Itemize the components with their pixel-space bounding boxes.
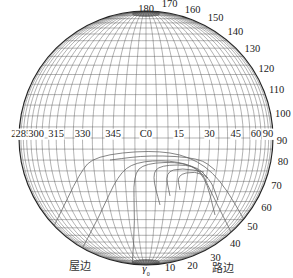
c-plane-label: 300 bbox=[28, 129, 45, 140]
gamma-angle-label: 170 bbox=[162, 0, 178, 9]
c-plane-label: 30 bbox=[204, 129, 216, 140]
c-plane-label: 45 bbox=[230, 129, 242, 140]
gamma-angle-label: 130 bbox=[245, 43, 261, 54]
c-plane-label: 330 bbox=[74, 129, 91, 140]
gamma-zero-label: γ0 bbox=[142, 263, 149, 276]
gamma-angle-label: 10 bbox=[165, 263, 176, 274]
gamma-angle-label: 80 bbox=[278, 157, 289, 168]
polar-diagram: 270285300315330345C0153045607590 1801701… bbox=[0, 0, 293, 278]
gamma-angle-label: 70 bbox=[271, 180, 282, 191]
road-side-label: 路边 bbox=[212, 263, 234, 274]
gamma-angle-label: 180 bbox=[138, 4, 154, 15]
gamma-angle-label: 120 bbox=[259, 63, 275, 74]
gamma-angle-label: 90 bbox=[277, 136, 288, 147]
c-plane-label: 60 bbox=[250, 129, 262, 140]
c-plane-label: 15 bbox=[173, 129, 185, 140]
gamma-angle-label: 110 bbox=[269, 85, 284, 96]
gamma-angle-label: 160 bbox=[185, 5, 201, 16]
c-plane-label: 90 bbox=[262, 129, 274, 140]
c-plane-label: 345 bbox=[105, 129, 122, 140]
gamma-angle-label: 40 bbox=[230, 239, 241, 250]
gamma-angle-label: 150 bbox=[208, 12, 224, 23]
gamma-angle-label: 140 bbox=[227, 26, 243, 37]
gamma-angle-label: 20 bbox=[187, 261, 198, 272]
gamma-angle-label: 100 bbox=[275, 109, 291, 120]
house-side-label: 屋边 bbox=[69, 261, 91, 272]
gamma-angle-label: 60 bbox=[261, 202, 272, 213]
c-plane-label: 315 bbox=[48, 129, 65, 140]
c-plane-label: C0 bbox=[139, 129, 152, 140]
gamma-angle-label: 50 bbox=[247, 222, 258, 233]
